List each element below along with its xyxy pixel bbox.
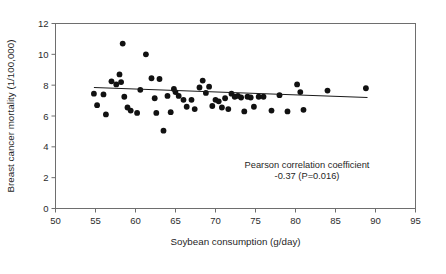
y-tick-label: 8 (43, 80, 48, 91)
data-point (118, 79, 124, 85)
axes-group: 50556065707580859095024681012 (38, 18, 421, 226)
data-point (197, 85, 203, 91)
data-point (206, 84, 212, 90)
data-point (109, 78, 115, 84)
y-tick-label: 10 (38, 49, 49, 60)
x-tick-label: 90 (370, 215, 381, 226)
data-point (153, 110, 159, 116)
data-point (203, 90, 209, 96)
data-point (121, 94, 127, 100)
data-point (269, 108, 275, 114)
data-point (181, 97, 187, 103)
data-point (277, 92, 283, 98)
data-point (251, 104, 257, 110)
y-tick-label: 4 (43, 141, 48, 152)
scatter-plot-figure: 50556065707580859095024681012 Soybean co… (0, 0, 446, 274)
annotation-group: Pearson correlation coefficient-0.37 (P=… (245, 160, 370, 181)
y-tick-label: 12 (38, 18, 49, 29)
data-point (192, 106, 198, 112)
pearson-annotation-line1: Pearson correlation coefficient (245, 160, 370, 170)
y-tick-label: 0 (43, 203, 48, 214)
data-point (238, 95, 244, 101)
data-point (248, 95, 254, 101)
data-point (103, 112, 109, 118)
data-points-group (91, 41, 369, 134)
x-tick-label: 95 (410, 215, 421, 226)
data-point (200, 78, 206, 84)
data-point (143, 51, 149, 57)
data-point (91, 91, 97, 97)
data-point (219, 105, 225, 111)
data-point (152, 95, 158, 101)
data-point (94, 102, 100, 108)
y-axis-title: Breast cancer mortality (1/100,000) (5, 39, 16, 192)
data-point (297, 89, 303, 95)
x-tick-label: 65 (170, 215, 181, 226)
x-tick-label: 55 (90, 215, 101, 226)
data-point (363, 85, 369, 91)
data-point (157, 76, 163, 82)
data-point (294, 82, 300, 88)
data-point (101, 92, 107, 98)
data-point (301, 107, 307, 113)
plot-frame (56, 24, 416, 209)
x-tick-label: 60 (130, 215, 141, 226)
data-point (149, 75, 155, 81)
data-point (165, 93, 171, 99)
data-point (241, 108, 247, 114)
x-tick-label: 75 (250, 215, 261, 226)
y-tick-label: 2 (43, 172, 48, 183)
x-tick-label: 70 (210, 215, 221, 226)
data-point (184, 104, 190, 110)
data-point (134, 110, 140, 116)
data-point (168, 109, 174, 115)
data-point (120, 41, 126, 47)
data-point (261, 94, 267, 100)
data-point (128, 108, 134, 114)
x-tick-label: 80 (290, 215, 301, 226)
data-point (285, 108, 291, 114)
x-tick-label: 85 (330, 215, 341, 226)
x-axis-title: Soybean consumption (g/day) (170, 236, 300, 247)
y-tick-label: 6 (43, 111, 48, 122)
plot-canvas: 50556065707580859095024681012 Soybean co… (0, 0, 446, 274)
data-point (225, 106, 231, 112)
x-tick-label: 50 (50, 215, 61, 226)
data-point (161, 128, 167, 134)
pearson-annotation-line2: -0.37 (P=0.016) (275, 171, 340, 181)
data-point (176, 93, 182, 99)
data-point (216, 98, 222, 104)
data-point (117, 71, 123, 77)
data-point (189, 97, 195, 103)
data-point (209, 103, 215, 109)
data-point (222, 95, 228, 101)
data-point (325, 88, 331, 94)
